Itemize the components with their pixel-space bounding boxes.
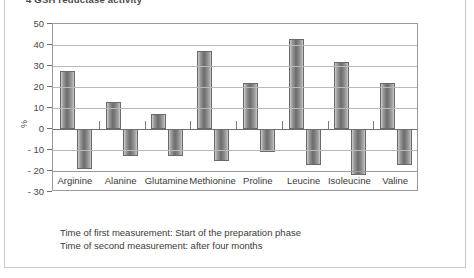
bar-positive [197,51,212,129]
category-label: Alanine [98,175,144,186]
y-tick-mark [47,86,52,87]
bar-positive [60,71,75,129]
footnotes: Time of first measurement: Start of the … [60,226,301,252]
y-tick-label: 20 [0,81,44,92]
bar-negative [123,129,138,156]
plot-area [52,23,418,191]
category-label: Methionine [189,175,235,186]
category-label: Proline [235,175,281,186]
bar-negative [397,129,412,165]
bar-negative [306,129,321,165]
zero-axis-line [53,129,417,130]
y-tick-mark [47,170,52,171]
gridline [53,150,417,151]
bar-positive [289,39,304,129]
bar-negative [168,129,183,156]
y-tick-label: 30 [0,60,44,71]
gridline [53,45,417,46]
y-tick-mark [47,107,52,108]
bar-positive [106,102,121,129]
bar-negative [351,129,366,175]
y-tick-label: - 30 [0,186,44,197]
y-tick-mark [47,191,52,192]
category-label: Isoleucine [327,175,373,186]
y-tick-mark [47,44,52,45]
gridline [53,66,417,67]
y-tick-mark [47,65,52,66]
gridline [53,87,417,88]
y-tick-label: - 10 [0,144,44,155]
category-label: Arginine [52,175,98,186]
y-tick-label: 40 [0,39,44,50]
category-label: Glutamine [144,175,190,186]
y-tick-label: 0 [0,123,44,134]
bar-positive [243,83,258,129]
y-tick-mark [47,149,52,150]
y-tick-label: 50 [0,18,44,29]
bars-layer [53,24,417,190]
gridline [53,108,417,109]
category-band-top [53,171,417,172]
bar-negative [260,129,275,152]
category-label: Leucine [281,175,327,186]
bar-positive [151,114,166,129]
y-tick-label: - 20 [0,165,44,176]
bar-negative [77,129,92,169]
category-label: Valine [372,175,418,186]
y-tick-mark [47,23,52,24]
footnote-first-measurement: Time of first measurement: Start of the … [60,226,301,239]
bar-negative [214,129,229,161]
bar-positive [380,83,395,129]
footnote-second-measurement: Time of second measurement: after four m… [60,239,301,252]
y-tick-label: 10 [0,102,44,113]
y-tick-mark [47,128,52,129]
bar-positive [334,62,349,129]
